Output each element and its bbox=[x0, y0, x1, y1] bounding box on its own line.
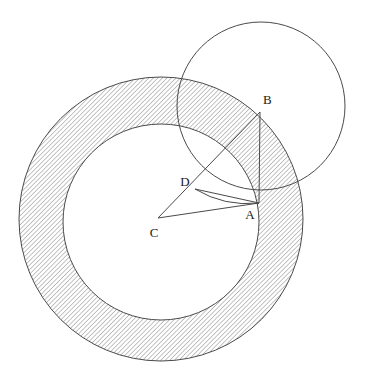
point-label-c: C bbox=[150, 225, 159, 240]
point-label-a: A bbox=[245, 207, 255, 222]
geometry-figure: A B C D bbox=[0, 0, 367, 385]
point-label-d: D bbox=[180, 174, 189, 189]
point-label-b: B bbox=[263, 92, 272, 107]
geometry-canvas: A B C D bbox=[0, 0, 367, 385]
